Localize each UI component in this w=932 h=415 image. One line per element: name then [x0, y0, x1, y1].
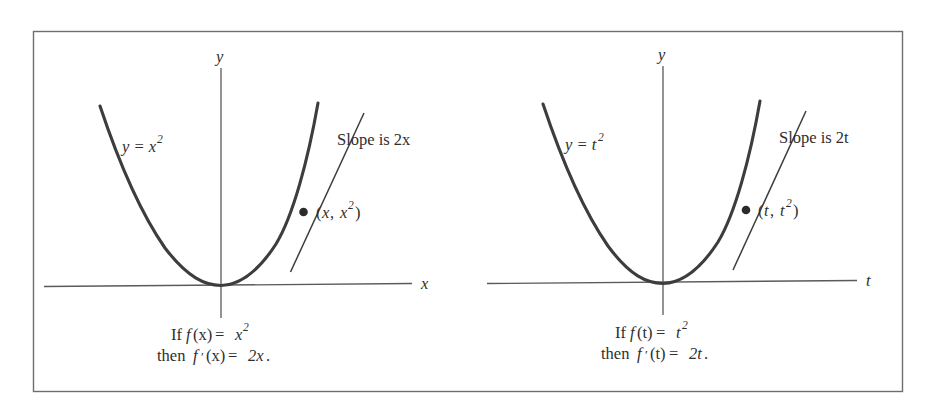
caption2-prime-mark: ′ — [645, 347, 648, 362]
point-label-separator: , — [330, 203, 334, 222]
caption-line-1: If f (t) = t 2 — [615, 319, 688, 342]
point-label-close: ) — [793, 201, 799, 220]
caption1-argument: (t) — [637, 323, 653, 342]
caption1-base: t — [676, 323, 681, 342]
curve-equation-exponent: 2 — [598, 131, 604, 143]
x-axis-label: t — [866, 271, 871, 290]
calculus-figure: y x y = x 2 Slope is 2x ( x , x 2 ) If — [0, 0, 932, 415]
point-label-exponent: 2 — [786, 197, 792, 209]
point-label-open: ( — [316, 203, 322, 222]
slope-annotation: Slope is 2t — [779, 128, 849, 147]
x-axis-label: x — [420, 274, 429, 293]
tangent-point-marker — [742, 206, 751, 215]
caption2-period: . — [704, 344, 708, 363]
caption1-exponent: 2 — [682, 319, 688, 331]
point-label-close: ) — [355, 203, 361, 222]
caption-line-2: then f ′ (t) = 2t . — [601, 344, 708, 363]
figure-container: y x y = x 2 Slope is 2x ( x , x 2 ) If — [0, 0, 932, 415]
y-axis-label: y — [656, 45, 666, 64]
caption-line-2: then f ′ (x) = 2x . — [157, 346, 270, 365]
caption2-equals: = — [228, 346, 237, 365]
caption1-base: x — [234, 325, 243, 344]
caption1-argument: (x) — [193, 325, 212, 344]
caption1-prefix: If — [615, 323, 626, 342]
point-label-first: x — [321, 203, 330, 222]
curve-equation-exponent: 2 — [157, 133, 163, 145]
caption2-prefix: then — [601, 344, 629, 363]
caption2-argument: (t) — [650, 344, 666, 363]
point-label-exponent: 2 — [348, 199, 354, 211]
curve-equation-text: y = t — [563, 135, 597, 154]
caption2-result: 2x — [248, 346, 264, 365]
caption2-prime-mark: ′ — [201, 349, 204, 364]
caption2-argument: (x) — [206, 346, 225, 365]
caption2-period: . — [266, 346, 270, 365]
point-label-first: t — [764, 201, 769, 220]
curve-equation-text: y = x — [120, 137, 157, 156]
point-label-separator: , — [770, 201, 774, 220]
caption1-equals: = — [656, 323, 665, 342]
caption2-equals: = — [669, 344, 678, 363]
caption1-exponent: 2 — [243, 321, 249, 333]
tangent-point-marker — [299, 208, 308, 217]
caption2-prefix: then — [157, 346, 185, 365]
slope-annotation: Slope is 2x — [337, 130, 411, 149]
y-axis-label: y — [214, 47, 224, 66]
point-label-open: ( — [758, 201, 764, 220]
caption1-prefix: If — [171, 325, 182, 344]
caption2-result: 2t — [689, 344, 702, 363]
caption1-equals: = — [215, 325, 224, 344]
point-label-base: x — [339, 203, 348, 222]
point-label-base: t — [780, 201, 785, 220]
